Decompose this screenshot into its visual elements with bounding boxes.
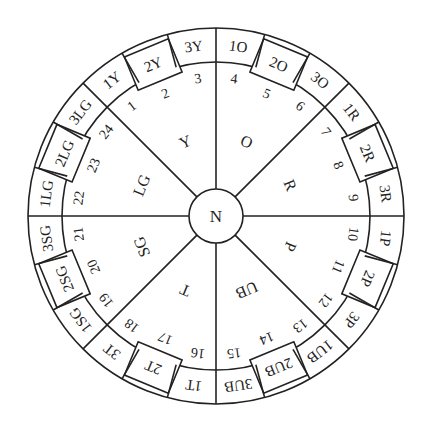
sector-divider <box>235 107 325 197</box>
segment-number: 15 <box>226 345 242 362</box>
outer-segment-label: 1Y <box>100 68 124 92</box>
sector-label: P <box>281 239 300 254</box>
segment-number: 8 <box>330 159 347 171</box>
color-wheel-diagram: Y1Y12Y23Y3O1O42O53O6R1R72R83R9P1P102P113… <box>0 0 428 427</box>
segment-number: 7 <box>318 124 334 139</box>
segment-number: 21 <box>70 226 87 242</box>
outer-segment-label: 3R <box>376 184 394 203</box>
sector-label: SG <box>130 234 154 260</box>
segment-number: 14 <box>257 329 276 348</box>
segment-divider <box>325 83 349 107</box>
sector-label: O <box>238 132 255 152</box>
outer-segment-label: 3SG <box>37 224 56 253</box>
outer-segment-label: 1P <box>377 229 395 247</box>
outer-segment-label: 1R <box>340 100 363 124</box>
outer-segment-label: 1UB <box>304 337 336 367</box>
segment-number: 23 <box>84 156 103 175</box>
sector-label: Y <box>177 131 195 151</box>
segment-number: 11 <box>329 258 348 276</box>
outer-segment-label: 1T <box>184 377 203 395</box>
segment-number: 12 <box>316 290 336 310</box>
segment-number: 19 <box>96 290 116 310</box>
center-hub: N <box>189 189 243 243</box>
outer-segment-label: 1SG <box>66 305 95 336</box>
sector-label: UB <box>233 278 260 302</box>
sector-label: T <box>177 281 193 301</box>
segment-number: 9 <box>345 193 361 202</box>
segment-number: 10 <box>345 226 362 242</box>
segment-number: 20 <box>84 257 103 276</box>
segment-number: 3 <box>193 71 202 87</box>
segment-number: 5 <box>261 85 273 102</box>
sector-divider <box>107 107 197 197</box>
outer-segment-label: 3UB <box>223 376 253 396</box>
outer-segment-label: 3LG <box>66 96 96 128</box>
center-label: N <box>210 207 222 226</box>
sector-divider <box>235 235 325 325</box>
segment-number: 18 <box>122 316 142 336</box>
outer-segment-label: 3O <box>308 68 332 92</box>
segment-number: 16 <box>190 345 206 362</box>
outer-segment-label: 3T <box>100 340 123 363</box>
outer-segment-label: 1O <box>228 37 248 55</box>
segment-number: 17 <box>156 329 175 348</box>
segment-number: 2 <box>159 85 171 102</box>
segment-number: 22 <box>70 190 87 206</box>
sector-divider <box>107 235 197 325</box>
segment-number: 13 <box>290 316 310 336</box>
segment-number: 6 <box>293 98 308 114</box>
sector-label: R <box>280 177 300 194</box>
segment-number: 1 <box>124 98 139 114</box>
segment-number: 24 <box>96 122 116 142</box>
outer-segment-label: 1LG <box>37 179 56 209</box>
segment-number: 4 <box>230 71 239 87</box>
sector-label: LG <box>130 172 154 199</box>
outer-segment-label: 3Y <box>184 37 204 55</box>
outer-segment-label: 3P <box>340 309 362 331</box>
